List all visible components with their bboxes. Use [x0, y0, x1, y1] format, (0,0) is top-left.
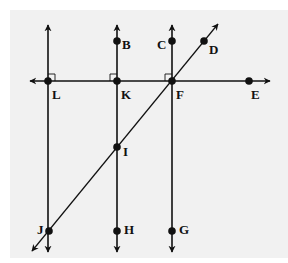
geometry-diagram: BCDLKFEIJHG — [0, 0, 288, 263]
point-dot — [113, 227, 121, 235]
point-dot — [200, 37, 208, 45]
point-dot — [45, 227, 53, 235]
point-dot — [113, 143, 121, 151]
point-dot — [168, 227, 176, 235]
point-dot — [113, 37, 121, 45]
diagram-canvas: BCDLKFEIJHG — [0, 0, 288, 263]
point-label: H — [124, 222, 134, 237]
point-label: J — [37, 222, 44, 237]
diagram-background — [10, 10, 288, 258]
cropped-caption — [0, 0, 288, 5]
point-dot — [168, 37, 176, 45]
point-label: D — [209, 42, 218, 57]
point-dot — [168, 77, 176, 85]
point-dot — [113, 77, 121, 85]
point-label: L — [52, 87, 61, 102]
point-label: F — [176, 87, 184, 102]
point-label: G — [179, 222, 189, 237]
point-label: K — [121, 87, 132, 102]
point-dot — [44, 77, 52, 85]
point-label: B — [122, 37, 131, 52]
point-label: E — [251, 87, 260, 102]
point-label: I — [123, 144, 128, 159]
point-label: C — [157, 37, 166, 52]
point-dot — [245, 77, 253, 85]
